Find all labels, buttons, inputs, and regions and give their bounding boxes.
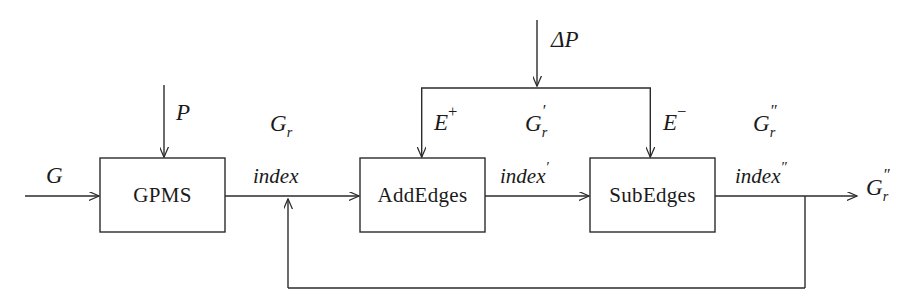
label-gpms-output-graph: G r (270, 112, 287, 135)
label-final-output-graph: G ″ r (866, 176, 883, 199)
label-added-edges: E + (434, 111, 448, 134)
label-input-graph: G (46, 164, 63, 187)
label-delta-pattern: ΔP (551, 28, 579, 51)
label-pattern-input: P (176, 101, 190, 124)
diagram-lines-svg (0, 0, 908, 306)
block-subedges-label: SubEdges (590, 158, 715, 232)
label-subtracted-edges: E − (663, 111, 677, 134)
block-diagram-canvas: GPMS AddEdges SubEdges G P G r index ΔP … (0, 0, 908, 306)
label-gpms-output-index: index (253, 166, 298, 187)
block-gpms-label: GPMS (100, 158, 225, 232)
label-addedges-output-index: index ′ (500, 166, 545, 187)
label-subedges-output-index: index ″ (735, 166, 780, 187)
block-addedges-label: AddEdges (360, 158, 485, 232)
label-addedges-output-graph: G ′ r (525, 112, 542, 135)
label-subedges-output-graph: G ″ r (753, 112, 770, 135)
